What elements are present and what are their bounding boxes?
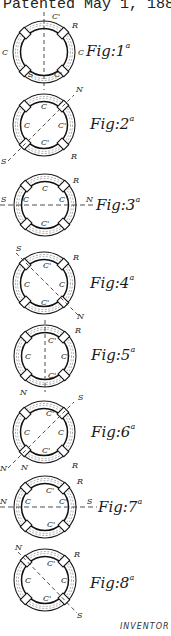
svg-text:C': C' (41, 298, 49, 307)
svg-text:S: S (1, 195, 7, 204)
svg-text:C': C' (52, 12, 60, 21)
figure-2-label: Fig:2a (90, 115, 134, 133)
figure-5-label-text: Fig:5 (91, 346, 130, 364)
figure-3-ring: R C C C C' S N (0, 174, 95, 236)
figure-6-label-suffix: a (130, 422, 135, 431)
svg-text:C: C (2, 48, 8, 57)
svg-text:C: C (42, 184, 48, 193)
svg-text:R: R (73, 550, 80, 559)
svg-text:R: R (71, 21, 78, 30)
figure-4-ring: S R C' C C C' N (13, 244, 85, 321)
figure-4-label: Fig:4a (90, 274, 134, 292)
svg-text:S: S (87, 497, 93, 506)
figure-2-label-text: Fig:2 (90, 115, 129, 133)
svg-text:S: S (16, 244, 22, 253)
svg-text:C: C (58, 428, 64, 437)
svg-text:N: N (0, 497, 8, 506)
svg-text:R: R (71, 461, 78, 470)
svg-text:N: N (19, 388, 28, 397)
svg-text:C': C' (48, 336, 56, 345)
svg-text:C': C' (47, 559, 55, 568)
figure-5-ring: R C' C C' C' (14, 320, 81, 392)
figure-2-ring: S C' N C C C' C' R S (1, 70, 84, 166)
svg-text:C: C (24, 280, 30, 289)
figure-8-label: Fig:8a (90, 574, 134, 592)
figure-1-label: Fig:1a (86, 42, 130, 60)
figure-3-label-text: Fig:3 (96, 196, 135, 214)
svg-text:R: R (72, 253, 79, 262)
figure-5-label: Fig:5a (91, 346, 135, 364)
svg-text:C': C' (43, 261, 51, 270)
figure-7-label-suffix: a (137, 497, 142, 506)
svg-text:C: C (41, 102, 47, 111)
figure-7-ring: N R C' C C' C' N S (0, 463, 97, 538)
svg-text:C': C' (46, 409, 54, 418)
svg-text:S: S (77, 611, 83, 620)
svg-text:C: C (59, 195, 65, 204)
figure-6-ring: N S C' C C C' N R (0, 388, 84, 473)
figure-2-label-suffix: a (129, 114, 134, 123)
svg-text:C: C (59, 280, 65, 289)
svg-text:R: R (70, 152, 77, 161)
svg-text:C': C' (54, 70, 62, 79)
svg-text:R: R (76, 477, 83, 486)
svg-text:C': C' (41, 219, 49, 228)
svg-text:S: S (1, 157, 7, 166)
svg-text:C: C (25, 497, 31, 506)
svg-text:R: R (74, 326, 81, 335)
svg-text:C: C (24, 428, 30, 437)
svg-text:C: C (25, 576, 31, 585)
figure-4-label-text: Fig:4 (90, 274, 129, 292)
svg-text:C': C' (42, 446, 50, 455)
svg-text:C: C (23, 195, 29, 204)
svg-text:R: R (72, 176, 79, 185)
figure-5-label-suffix: a (130, 345, 135, 354)
svg-text:C: C (25, 352, 31, 361)
svg-text:S: S (78, 393, 84, 402)
inventor-label: INVENTOR (120, 622, 170, 631)
figure-3-label: Fig:3a (96, 196, 140, 214)
svg-text:C': C' (41, 138, 49, 147)
figure-8-label-suffix: a (129, 573, 134, 582)
svg-text:N: N (85, 195, 94, 204)
figure-7-label: Fig:7a (98, 498, 142, 516)
figure-6-label-text: Fig:6 (91, 423, 130, 441)
svg-text:C': C' (61, 352, 69, 361)
svg-text:C: C (61, 576, 67, 585)
svg-text:C': C' (43, 594, 51, 603)
figure-1-ring: C' R C C (2, 12, 84, 90)
figure-1-label-text: Fig:1 (86, 42, 125, 60)
figure-6-label: Fig:6a (91, 423, 135, 441)
figure-8-ring: N R C' C C C' S (14, 543, 83, 620)
svg-text:C': C' (46, 486, 54, 495)
svg-text:C': C' (47, 520, 55, 529)
svg-text:N: N (75, 85, 84, 94)
svg-text:C': C' (59, 497, 67, 506)
svg-text:C: C (78, 48, 84, 57)
svg-text:N: N (20, 463, 29, 472)
svg-text:C': C' (48, 371, 56, 380)
figure-7-label-text: Fig:7 (98, 498, 137, 516)
figure-8-label-text: Fig:8 (90, 574, 129, 592)
patent-drawing: C' R C C S C' N C C C' C' R S R C C C C'… (0, 0, 171, 636)
svg-text:N: N (0, 464, 8, 473)
figure-4-label-suffix: a (129, 273, 134, 282)
svg-text:S: S (28, 70, 34, 79)
svg-text:N: N (14, 543, 23, 552)
svg-text:N: N (76, 312, 85, 321)
figure-1-label-suffix: a (125, 41, 130, 50)
svg-text:C': C' (58, 121, 66, 130)
figure-3-label-suffix: a (135, 195, 140, 204)
svg-text:C: C (24, 121, 30, 130)
